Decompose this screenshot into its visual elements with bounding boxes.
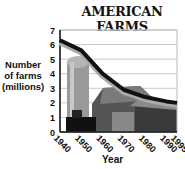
y-tick: 3 [50, 84, 55, 94]
y-tick: 0 [50, 128, 55, 138]
y-tick: 2 [50, 98, 55, 108]
farm-illustration [66, 56, 177, 132]
tractor-icon [66, 117, 96, 132]
x-tick-labels: 1940195019601970198019901995 [52, 133, 185, 154]
x-tick: 1960 [94, 133, 115, 154]
y-tick-labels: 01234567 [50, 26, 55, 138]
x-tick: 1950 [73, 133, 94, 154]
y-tick: 6 [50, 40, 55, 50]
y-tick: 5 [50, 55, 55, 65]
x-tick: 1940 [52, 133, 73, 154]
line-chart: 01234567 1940195019601970198019901995 [0, 0, 185, 169]
y-tick: 7 [50, 26, 55, 36]
y-tick: 1 [50, 113, 55, 123]
y-tick: 4 [50, 69, 55, 79]
x-tick: 1970 [116, 133, 137, 154]
x-tick: 1980 [137, 133, 158, 154]
